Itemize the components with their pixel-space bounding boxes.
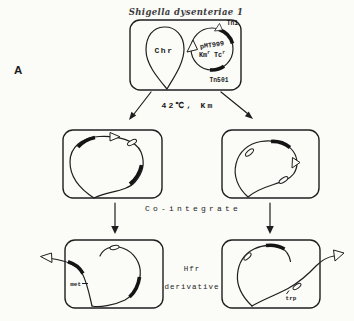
step-arrow-right	[221, 92, 248, 114]
panel-label: A	[14, 64, 22, 76]
cointegrate-loop-right	[235, 141, 297, 197]
trp-label: trp	[286, 295, 297, 302]
hfr-cell-left: met	[41, 240, 164, 308]
tn-arc-top-left-icon	[78, 138, 95, 148]
tc-label: Tc	[210, 51, 222, 59]
chromosome-loop-right	[237, 245, 290, 306]
is-element-oval-icon	[110, 245, 120, 251]
figure-panel: Shigella dysenteriae 1 A Chr pMT999 Kmr …	[0, 0, 354, 321]
tn-arc-right-icon	[130, 277, 140, 297]
chromosome-loop-left	[92, 247, 140, 307]
is-element-oval-upper-icon	[243, 252, 252, 261]
tn-arc-top-icon	[266, 245, 285, 249]
donor-cell: Chr pMT999 Kmr Tcr Tn1 Tn501	[130, 20, 241, 90]
tn1-label: Tn1	[227, 20, 239, 27]
hfr-cell-left-outline	[65, 240, 163, 308]
selection-step: 42℃, Km	[129, 92, 253, 120]
tn-arc-entry-icon	[68, 262, 83, 274]
tn501-label: Tn501	[210, 77, 229, 84]
transfer-arrowhead-left-icon	[41, 253, 53, 263]
hfr-derivative-caption: Hfr derivative	[164, 265, 219, 291]
down-arrow-right-head-icon	[266, 226, 274, 234]
tn501-arc	[210, 66, 224, 70]
plasmid-insertion-triangle-icon	[187, 40, 198, 52]
chromosome-label: Chr	[155, 46, 174, 55]
tn-arc-top-icon	[271, 141, 290, 147]
down-arrow-left-head-icon	[111, 226, 119, 234]
insertion-triangle-icon	[110, 133, 120, 142]
met-label: met	[70, 281, 81, 288]
figure-title: Shigella dysenteriae 1	[129, 7, 244, 17]
plasmid-name-label: pMT999	[199, 39, 224, 50]
trp-tick	[287, 291, 290, 295]
tc-sup: r	[222, 50, 225, 55]
hfr-caption-line1: Hfr	[184, 265, 201, 273]
chromosome-outline	[146, 27, 184, 89]
km-label: Km	[199, 51, 207, 59]
hfr-cell-right-outline	[222, 240, 320, 308]
tn1-notch-icon	[215, 24, 223, 32]
condition-label: 42℃, Km	[161, 101, 214, 110]
cointegrate-label: Co-integrate	[145, 204, 241, 213]
cointegrate-cell-right	[222, 130, 319, 198]
plasmid-marker-label: Kmr Tcr	[199, 50, 225, 59]
step-arrow-left	[134, 92, 151, 114]
is-element-oval-upper-icon	[244, 148, 254, 158]
transfer-arrowhead-right-icon	[334, 250, 345, 261]
hfr-cell-right: trp	[222, 240, 344, 308]
hfr-caption-line2: derivative	[164, 283, 219, 291]
is-element-oval-lower-icon	[278, 176, 289, 185]
cointegrate-step: Co-integrate	[111, 203, 274, 234]
cointegrate-cell-left	[63, 130, 162, 198]
